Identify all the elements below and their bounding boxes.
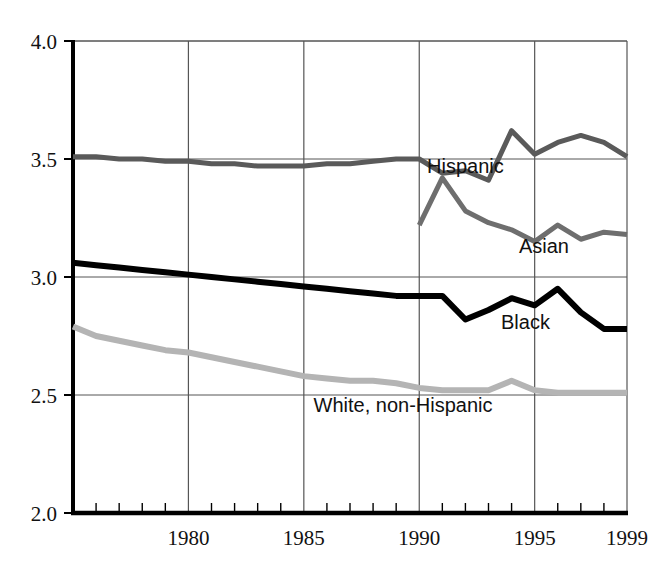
- y-axis-tick-label: 3.0: [31, 266, 57, 290]
- x-axis-tick-label: 1999: [606, 526, 648, 550]
- x-axis-tick-label: 1995: [514, 526, 556, 550]
- series-label-white-non-hispanic: White, non-Hispanic: [314, 394, 493, 416]
- x-axis-tick-label: 1980: [167, 526, 209, 550]
- series-label-hispanic: Hispanic: [427, 155, 504, 177]
- x-axis-tick-label: 1990: [398, 526, 440, 550]
- y-axis-tick-label: 4.0: [31, 30, 57, 54]
- y-axis-tick-label: 3.5: [31, 148, 57, 172]
- x-axis-tick-label: 1985: [283, 526, 325, 550]
- y-axis-tick-label: 2.0: [31, 502, 57, 526]
- series-label-black: Black: [501, 311, 551, 333]
- y-axis-tick-label: 2.5: [31, 384, 57, 408]
- series-label-asian: Asian: [519, 235, 569, 257]
- line-chart: 2.02.53.03.54.019801985199019951999Hispa…: [0, 0, 667, 573]
- chart-canvas: 2.02.53.03.54.019801985199019951999Hispa…: [0, 0, 667, 573]
